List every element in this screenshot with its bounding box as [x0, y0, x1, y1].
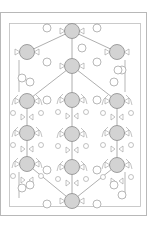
small-node: [114, 66, 122, 74]
small-node: [18, 184, 26, 192]
small-node: [43, 200, 51, 208]
small-node: [93, 24, 101, 32]
node-row2-left: [20, 126, 35, 141]
small-port: [101, 111, 106, 116]
small-node: [110, 78, 118, 86]
diagram-page: [0, 0, 151, 225]
small-node: [43, 166, 51, 174]
small-node: [43, 96, 51, 104]
small-node: [26, 78, 34, 86]
small-node: [93, 200, 101, 208]
small-node: [43, 58, 51, 66]
small-port: [84, 177, 89, 182]
small-port: [11, 143, 16, 148]
small-node: [93, 58, 101, 66]
small-port: [129, 143, 134, 148]
small-node: [18, 74, 26, 82]
small-port: [101, 143, 106, 148]
small-port: [129, 175, 134, 180]
node-center-upper: [65, 59, 80, 74]
small-node: [110, 181, 118, 189]
node-row1-center: [65, 93, 80, 108]
small-port: [39, 111, 44, 116]
network-diagram: [0, 0, 151, 225]
small-port: [101, 175, 106, 180]
node-upper-right: [110, 45, 125, 60]
node-row1-right: [110, 94, 125, 109]
small-node: [43, 24, 51, 32]
node-row2-right: [110, 126, 125, 141]
small-node: [26, 181, 34, 189]
node-upper-left: [20, 45, 35, 60]
small-port: [56, 144, 61, 149]
small-port: [84, 144, 89, 149]
node-bottom: [65, 194, 80, 209]
small-node: [93, 96, 101, 104]
node-top: [65, 24, 80, 39]
small-port: [39, 174, 44, 179]
node-row3-center: [65, 160, 80, 175]
node-row3-left: [20, 157, 35, 172]
small-port: [84, 110, 89, 115]
small-port: [39, 143, 44, 148]
small-port: [11, 111, 16, 116]
small-port: [56, 177, 61, 182]
small-node: [93, 166, 101, 174]
node-row1-left: [20, 94, 35, 109]
small-node: [78, 44, 86, 52]
small-node: [118, 191, 126, 199]
small-port: [11, 174, 16, 179]
small-port: [129, 111, 134, 116]
node-row2-center: [65, 127, 80, 142]
small-port: [56, 110, 61, 115]
node-row3-right: [110, 158, 125, 173]
